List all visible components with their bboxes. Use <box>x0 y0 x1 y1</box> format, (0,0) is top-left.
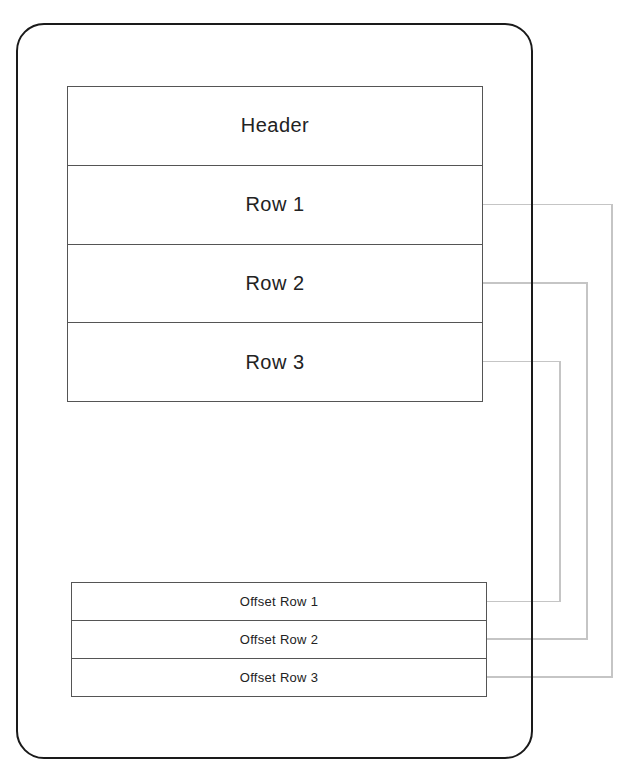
offset-table-row: Offset Row 3 <box>72 658 486 696</box>
table-header-label: Header <box>241 114 310 137</box>
offset-table-row: Offset Row 1 <box>72 583 486 620</box>
table-row-label: Row 1 <box>245 193 304 216</box>
diagram-canvas: Header Row 1 Row 2 Row 3 Offset Row 1 Of… <box>0 0 629 784</box>
table-row-label: Row 2 <box>245 272 304 295</box>
offset-row-label: Offset Row 3 <box>240 670 319 685</box>
table-row: Row 2 <box>68 244 482 323</box>
offset-row-label: Offset Row 1 <box>240 594 319 609</box>
table-row: Row 1 <box>68 165 482 244</box>
offset-table-row: Offset Row 2 <box>72 620 486 658</box>
table-row: Row 3 <box>68 322 482 401</box>
offset-row-label: Offset Row 2 <box>240 632 319 647</box>
table-row-label: Row 3 <box>245 351 304 374</box>
offset-table: Offset Row 1 Offset Row 2 Offset Row 3 <box>71 582 487 697</box>
table-view: Header Row 1 Row 2 Row 3 <box>67 86 483 402</box>
table-header-row: Header <box>68 87 482 165</box>
